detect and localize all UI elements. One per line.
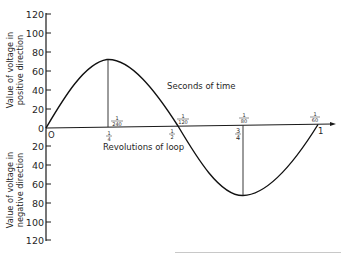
x-axis-arrowhead: [330, 122, 336, 126]
ylabel-negative-line1: Value of voltage in: [5, 152, 15, 228]
origin-label: O: [48, 130, 55, 140]
ytick-80-neg: 80: [32, 198, 44, 209]
y-ticks-negative: [46, 146, 51, 240]
ylabel-negative: Value of voltage in negative direction: [5, 152, 25, 228]
ytick-20-pos: 20: [32, 104, 44, 115]
svg-text:60: 60: [312, 117, 318, 123]
ytick-60-pos: 60: [32, 66, 44, 77]
sec-tick-80: 1 80: [239, 112, 249, 124]
ylabel-positive-line1: Value of voltage in: [5, 32, 15, 108]
svg-text:120: 120: [178, 119, 188, 125]
x-axis: [46, 124, 333, 128]
ytick-80-pos: 80: [32, 47, 44, 58]
sec-tick-120: 1 120: [177, 113, 189, 125]
svg-text:2: 2: [170, 134, 173, 140]
ytick-120-neg: 120: [26, 235, 44, 246]
ytick-0: 0: [38, 123, 44, 134]
rev-tick-three-quarter: 3 4: [235, 127, 241, 142]
ytick-40-pos: 40: [32, 85, 44, 96]
rev-tick-quarter: 1 4: [106, 130, 112, 142]
ytick-20-neg: 20: [32, 141, 44, 152]
svg-text:240: 240: [112, 121, 122, 127]
voltage-sine-chart: 120 100 80 60 40 20 0 20 40 60 80 100 12…: [0, 0, 341, 254]
ytick-120-pos: 120: [26, 9, 44, 20]
ylabel-negative-line2: negative direction: [15, 153, 25, 227]
ytick-60-neg: 60: [32, 179, 44, 190]
svg-text:4: 4: [236, 134, 240, 142]
ylabel-positive-line2: positive direction: [15, 35, 25, 106]
svg-text:80: 80: [241, 118, 247, 124]
rev-tick-one: 1: [318, 126, 323, 136]
ytick-100-neg: 100: [26, 217, 44, 228]
y-ticks-positive: [46, 14, 51, 109]
ytick-100-pos: 100: [26, 28, 44, 39]
sec-tick-240: 1 240: [111, 115, 123, 127]
revolutions-of-loop-label: Revolutions of loop: [103, 142, 184, 152]
seconds-of-time-label: Seconds of time: [167, 81, 236, 91]
ytick-40-neg: 40: [32, 160, 44, 171]
ylabel-positive: Value of voltage in positive direction: [5, 32, 25, 108]
rev-tick-half: 1 2: [169, 128, 175, 140]
sec-tick-60: 1 60: [310, 111, 320, 123]
